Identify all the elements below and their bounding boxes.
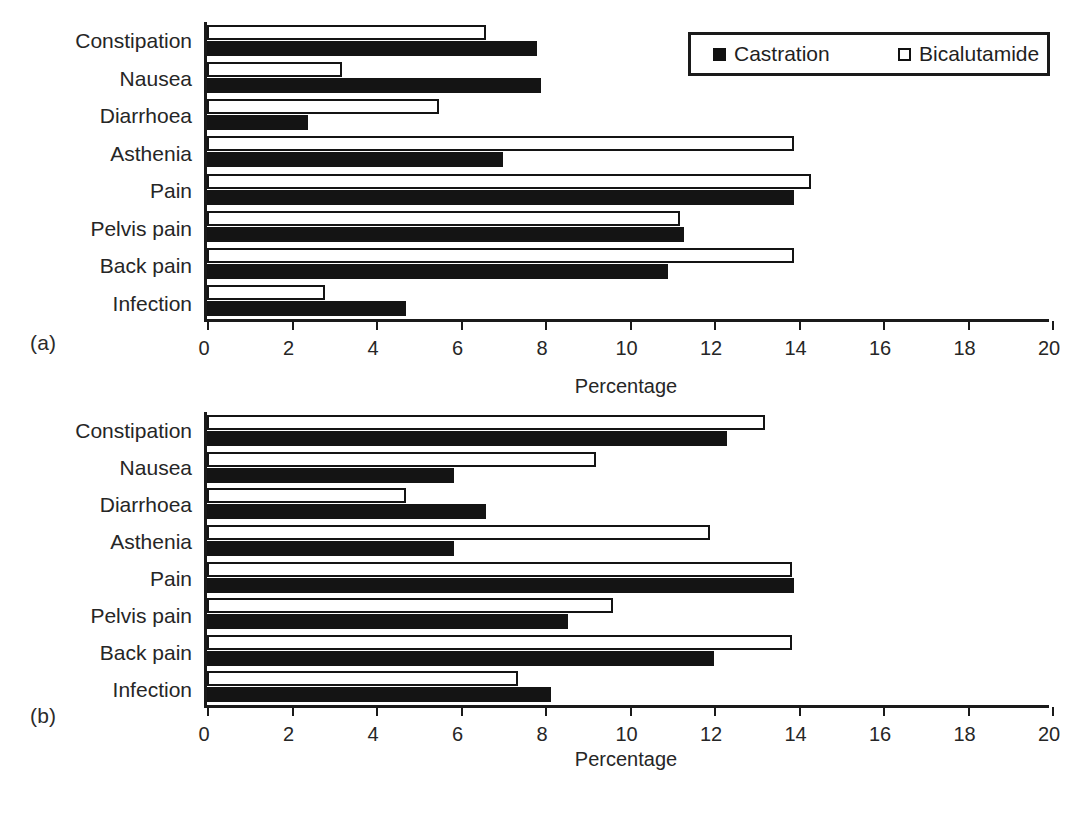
xaxis-tick <box>292 321 294 330</box>
xtick-label: 2 <box>283 337 294 360</box>
bar-open <box>207 415 765 430</box>
bar-filled <box>207 687 551 702</box>
xtick-label: 0 <box>198 337 209 360</box>
xaxis-tick <box>799 321 801 330</box>
xaxis-tick <box>461 321 463 330</box>
bar-filled <box>207 504 486 519</box>
bar-filled <box>207 614 568 629</box>
bar-filled <box>207 651 714 666</box>
xaxis-tick <box>207 321 209 330</box>
bar-group <box>207 245 1049 282</box>
bar-group <box>207 208 1049 245</box>
xtick-label: 4 <box>367 723 378 746</box>
category-label: Infection <box>0 285 198 323</box>
bar-open <box>207 211 680 226</box>
bar-filled <box>207 431 727 446</box>
xaxis-tick <box>883 321 885 330</box>
panel-a-category-labels: ConstipationNauseaDiarrhoeaAstheniaPainP… <box>0 22 198 322</box>
bar-open <box>207 174 811 189</box>
xtick-label: 12 <box>700 723 722 746</box>
panel-a-tag: (a) <box>30 331 56 355</box>
xtick-label: 8 <box>536 337 547 360</box>
bar-filled <box>207 78 541 93</box>
filled-square-icon <box>713 48 726 61</box>
panel-a: (a) ConstipationNauseaDiarrhoeaAstheniaP… <box>0 0 1089 400</box>
xtick-label: 10 <box>615 337 637 360</box>
xaxis-tick <box>883 707 885 716</box>
bar-open <box>207 598 613 613</box>
bar-open <box>207 136 794 151</box>
bar-filled <box>207 541 454 556</box>
category-label: Constipation <box>0 22 198 60</box>
xaxis-tick <box>545 321 547 330</box>
bar-open <box>207 99 439 114</box>
panel-a-xaxis-title: Percentage <box>575 375 677 398</box>
bar-group <box>207 522 1049 559</box>
xaxis-tick <box>1052 707 1054 716</box>
panel-b: (b) ConstipationNauseaDiarrhoeaAstheniaP… <box>0 400 1089 827</box>
xtick-label: 14 <box>784 723 806 746</box>
bar-filled <box>207 578 794 593</box>
xaxis-tick <box>376 707 378 716</box>
category-label: Nausea <box>0 449 198 486</box>
bar-filled <box>207 301 406 316</box>
bar-group <box>207 133 1049 170</box>
xtick-label: 0 <box>198 723 209 746</box>
category-label: Diarrhoea <box>0 486 198 523</box>
category-label: Diarrhoea <box>0 97 198 135</box>
xtick-label: 6 <box>452 723 463 746</box>
xtick-label: 4 <box>367 337 378 360</box>
bar-open <box>207 525 710 540</box>
bar-open <box>207 25 486 40</box>
bar-group <box>207 171 1049 208</box>
bar-open <box>207 62 342 77</box>
xaxis-tick <box>292 707 294 716</box>
xtick-label: 16 <box>869 723 891 746</box>
bar-filled <box>207 468 454 483</box>
xtick-label: 8 <box>536 723 547 746</box>
xaxis-tick <box>714 707 716 716</box>
category-label: Pelvis pain <box>0 210 198 248</box>
panel-b-category-labels: ConstipationNauseaDiarrhoeaAstheniaPainP… <box>0 412 198 708</box>
category-label: Asthenia <box>0 135 198 173</box>
category-label: Pain <box>0 172 198 210</box>
category-label: Constipation <box>0 412 198 449</box>
xaxis-tick <box>1052 321 1054 330</box>
bar-group <box>207 282 1049 319</box>
bar-group <box>207 632 1049 669</box>
xaxis-tick <box>968 707 970 716</box>
xtick-label: 12 <box>700 337 722 360</box>
legend-label-castration: Castration <box>734 42 830 66</box>
xtick-label: 20 <box>1038 337 1060 360</box>
bar-open <box>207 248 794 263</box>
xtick-label: 14 <box>784 337 806 360</box>
xaxis-tick <box>714 321 716 330</box>
category-label: Pelvis pain <box>0 597 198 634</box>
bar-filled <box>207 115 308 130</box>
category-label: Asthenia <box>0 523 198 560</box>
bar-open <box>207 285 325 300</box>
xaxis-tick <box>630 707 632 716</box>
xtick-label: 2 <box>283 723 294 746</box>
category-label: Infection <box>0 671 198 708</box>
xaxis-tick <box>376 321 378 330</box>
bar-open <box>207 452 596 467</box>
bar-filled <box>207 190 794 205</box>
legend-label-bicalutamide: Bicalutamide <box>919 42 1039 66</box>
xaxis-tick <box>968 321 970 330</box>
xtick-label: 10 <box>615 723 637 746</box>
xaxis-tick <box>799 707 801 716</box>
bar-filled <box>207 227 684 242</box>
legend-entry-bicalutamide: Bicalutamide <box>898 42 1039 66</box>
bar-filled <box>207 264 668 279</box>
category-label: Nausea <box>0 60 198 98</box>
category-label: Back pain <box>0 634 198 671</box>
bar-filled <box>207 152 503 167</box>
legend-entry-castration: Castration <box>713 42 898 66</box>
bar-group <box>207 449 1049 486</box>
open-square-icon <box>898 48 911 61</box>
bar-open <box>207 488 406 503</box>
bar-open <box>207 671 518 686</box>
bar-group <box>207 485 1049 522</box>
bar-group <box>207 595 1049 632</box>
